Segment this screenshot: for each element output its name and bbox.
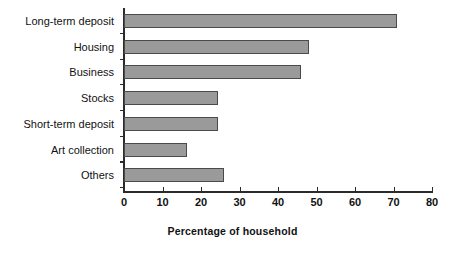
bar <box>124 91 218 105</box>
x-axis-tick <box>278 187 279 192</box>
x-axis-tick <box>355 187 356 192</box>
category-label: Short-term deposit <box>24 118 114 130</box>
x-axis-tick <box>432 187 433 192</box>
x-axis-title: Percentage of household <box>0 225 465 237</box>
x-axis-tick-label: 10 <box>156 196 168 208</box>
y-axis-category-labels: Long-term depositHousingBusinessStocksSh… <box>0 0 118 192</box>
x-axis-tick <box>240 187 241 192</box>
y-axis-tick <box>120 110 124 111</box>
y-axis-tick <box>120 136 124 137</box>
bar <box>124 14 397 28</box>
y-axis-tick <box>120 84 124 85</box>
x-axis-tick <box>317 187 318 192</box>
category-label: Art collection <box>51 144 114 156</box>
x-axis-tick-label: 30 <box>233 196 245 208</box>
y-axis-tick <box>120 33 124 34</box>
bar <box>124 117 218 131</box>
x-axis-tick <box>124 187 125 192</box>
category-label: Housing <box>74 41 114 53</box>
category-label: Long-term deposit <box>25 15 114 27</box>
bar <box>124 143 187 157</box>
x-axis-tick <box>201 187 202 192</box>
plot-area <box>124 10 432 192</box>
y-axis-tick <box>120 59 124 60</box>
x-axis-tick-label: 40 <box>272 196 284 208</box>
category-label: Stocks <box>81 92 114 104</box>
category-label: Business <box>69 66 114 78</box>
x-axis-tick-label: 70 <box>387 196 399 208</box>
x-axis-tick <box>163 187 164 192</box>
x-axis-tick-label: 80 <box>426 196 438 208</box>
bar <box>124 40 309 54</box>
category-label: Others <box>81 169 114 181</box>
bar <box>124 168 224 182</box>
x-axis-tick-label: 60 <box>349 196 361 208</box>
bar <box>124 65 301 79</box>
x-axis-tick-label: 50 <box>310 196 322 208</box>
x-axis-tick <box>394 187 395 192</box>
y-axis-tick <box>120 161 124 162</box>
bar-chart: Long-term depositHousingBusinessStocksSh… <box>0 0 465 256</box>
x-axis-tick-label: 0 <box>121 196 127 208</box>
x-axis-tick-label: 20 <box>195 196 207 208</box>
